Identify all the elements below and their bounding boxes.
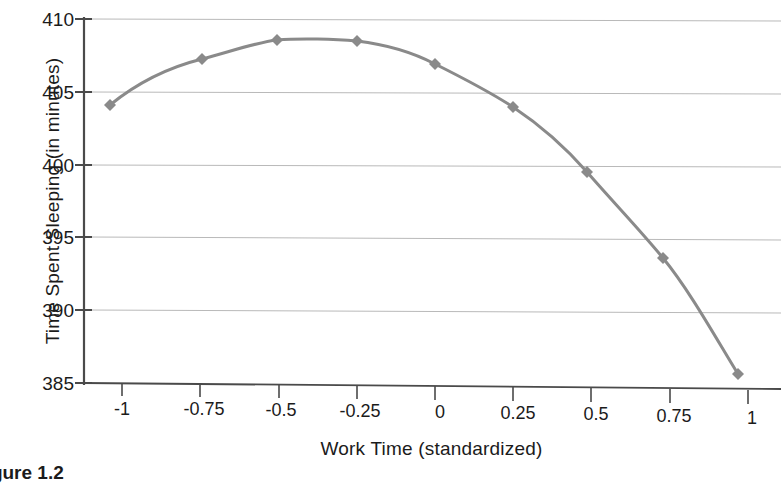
figure-caption: Figure 1.2	[0, 462, 64, 484]
axis-lines	[83, 17, 781, 389]
x-axis-ticks	[122, 383, 748, 404]
data-series-line	[110, 39, 738, 374]
x-axis-title: Work Time (standardized)	[83, 438, 780, 460]
data-point-markers	[104, 34, 744, 380]
